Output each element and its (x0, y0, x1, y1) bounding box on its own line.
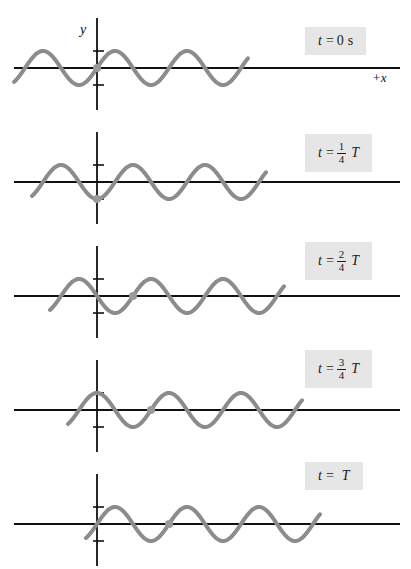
time-unit: s (344, 34, 353, 48)
wave-marker-dot (129, 292, 137, 300)
wave-panel-1: y +x t = 0 s (0, 0, 411, 114)
x-axis-label: +x (372, 70, 387, 86)
wave-panel-2: t = 1 4 T (0, 114, 411, 228)
fraction-denominator: 4 (337, 261, 347, 274)
time-symbol: t (318, 362, 325, 376)
time-label-1: t = 0 s (305, 27, 366, 55)
time-label-5: t = T (305, 462, 363, 490)
y-axis-label: y (80, 22, 86, 38)
period-symbol: T (346, 254, 359, 268)
equals-sign: = (325, 362, 337, 376)
fraction-denominator: 4 (337, 369, 347, 382)
wave-marker-dot (93, 64, 101, 72)
period-symbol: T (346, 362, 359, 376)
wave-panel-4: t = 3 4 T (0, 342, 411, 456)
equals-sign: = (325, 254, 337, 268)
time-label-3: t = 2 4 T (305, 242, 372, 280)
fraction-numerator: 2 (337, 249, 347, 261)
fraction-one-quarter: 1 4 (337, 141, 347, 165)
time-symbol: t (318, 254, 325, 268)
wave-panel-3: t = 2 4 T (0, 228, 411, 342)
fraction-two-quarters: 2 4 (337, 249, 347, 273)
fraction-three-quarters: 3 4 (337, 357, 347, 381)
equals-sign: = (325, 34, 337, 48)
wave-marker-dot (93, 195, 101, 203)
fraction-numerator: 3 (337, 357, 347, 369)
equals-sign: = (325, 469, 337, 483)
equals-sign: = (325, 146, 337, 160)
time-symbol: t (318, 34, 325, 48)
fraction-denominator: 4 (337, 153, 347, 166)
time-symbol: t (318, 469, 325, 483)
time-value: 0 (337, 34, 344, 48)
wave-marker-dot (165, 520, 173, 528)
wave-panel-5: t = T (0, 456, 411, 569)
period-symbol: T (337, 469, 350, 483)
wave-snapshot-figure: y +x t = 0 s t = 1 4 T (0, 0, 411, 569)
time-label-4: t = 3 4 T (305, 350, 372, 388)
time-symbol: t (318, 146, 325, 160)
wave-plot-1 (0, 0, 411, 114)
wave-marker-dot (147, 406, 155, 414)
period-symbol: T (346, 146, 359, 160)
fraction-numerator: 1 (337, 141, 347, 153)
time-label-2: t = 1 4 T (305, 134, 372, 172)
